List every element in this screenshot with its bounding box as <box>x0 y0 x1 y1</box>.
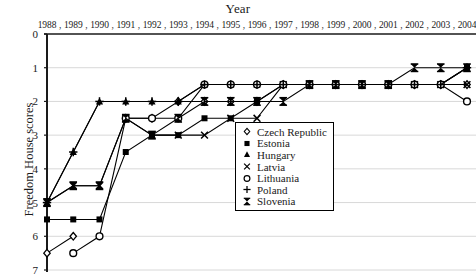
legend-item-estonia[interactable]: Estonia <box>240 138 327 150</box>
data-point-marker <box>243 186 250 193</box>
data-point-marker <box>70 250 77 257</box>
legend-item-czech-republic[interactable]: Czech Republic <box>240 126 327 138</box>
data-point-marker <box>70 232 76 240</box>
bowtie-marker-icon <box>240 196 254 207</box>
data-point-marker <box>244 164 250 170</box>
data-point-marker <box>44 249 50 257</box>
data-point-marker <box>244 198 250 204</box>
data-point-marker <box>70 216 76 222</box>
cross-marker-icon <box>240 161 254 172</box>
legend-item-poland[interactable]: Poland <box>240 184 327 196</box>
triangle-marker-icon <box>240 149 254 160</box>
plus-marker-icon <box>240 184 254 195</box>
legend-item-label: Lithuania <box>257 172 299 184</box>
legend-item-label: Poland <box>257 184 288 196</box>
data-point-marker <box>123 149 129 155</box>
data-point-marker <box>96 233 103 240</box>
diamond-marker-icon <box>240 126 254 137</box>
data-point-marker <box>149 115 156 122</box>
data-point-marker <box>244 129 249 135</box>
legend-item-label: Estonia <box>257 137 290 149</box>
legend-item-slovenia[interactable]: Slovenia <box>240 196 327 208</box>
circle-marker-icon <box>240 173 254 184</box>
data-point-marker <box>202 115 208 121</box>
legend-item-label: Hungary <box>257 149 296 161</box>
square-marker-icon <box>240 138 254 149</box>
legend-item-label: Slovenia <box>257 195 296 207</box>
chart-figure: Year 1988,1989,1990,1991,1992,1993,1994,… <box>0 0 476 280</box>
legend-item-label: Latvia <box>257 161 285 173</box>
data-point-marker <box>244 152 250 158</box>
data-point-marker <box>244 141 249 146</box>
data-point-marker <box>97 216 103 222</box>
data-point-marker <box>464 98 471 105</box>
legend-item-latvia[interactable]: Latvia <box>240 161 327 173</box>
chart-legend: Czech RepublicEstoniaHungaryLatviaLithua… <box>235 122 334 211</box>
data-point-marker <box>244 175 250 181</box>
legend-item-hungary[interactable]: Hungary <box>240 149 327 161</box>
legend-item-label: Czech Republic <box>257 126 327 138</box>
data-point-marker <box>44 216 50 222</box>
legend-item-lithuania[interactable]: Lithuania <box>240 172 327 184</box>
